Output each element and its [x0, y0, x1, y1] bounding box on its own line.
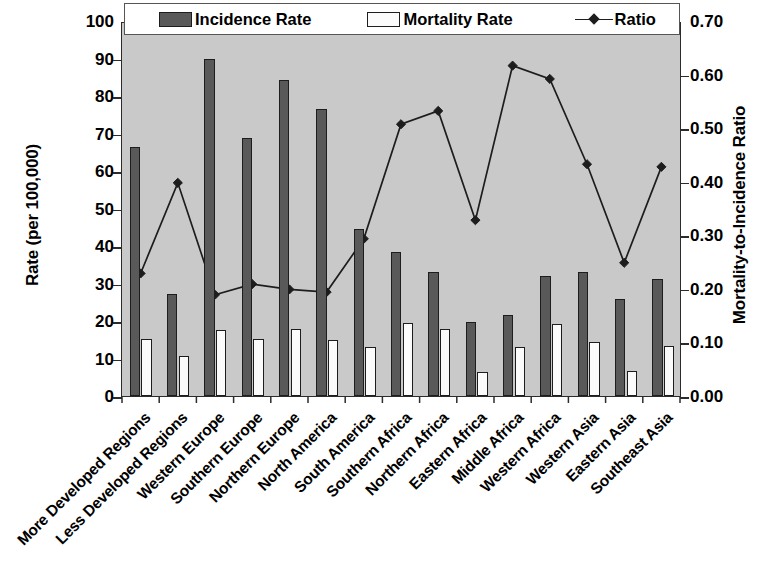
- ratio-data-marker: [657, 162, 666, 171]
- mortality-rate-bar: [141, 339, 151, 396]
- y-axis-right-tick-label: 0.40: [690, 174, 760, 191]
- chart-legend: Incidence Rate Mortality Rate Ratio: [124, 3, 680, 35]
- y-axis-left-tick-mark: [113, 60, 122, 62]
- y-axis-left-tick-mark: [113, 247, 122, 249]
- ratio-data-marker: [545, 74, 554, 83]
- y-axis-right-tick-label: 0.20: [690, 281, 760, 298]
- dark-bar-swatch-icon: [159, 12, 192, 27]
- y-axis-left-tick-label: 20: [54, 313, 114, 330]
- ratio-data-marker: [620, 258, 629, 267]
- light-bar-swatch-icon: [367, 12, 400, 27]
- y-axis-left-tick-label: 10: [54, 351, 114, 368]
- incidence-rate-bar: [540, 276, 550, 396]
- incidence-rate-bar: [242, 138, 252, 396]
- ratio-data-marker: [471, 216, 480, 225]
- mortality-rate-bar: [664, 346, 674, 396]
- ratio-data-marker: [582, 160, 591, 169]
- y-axis-left-title: Rate (per 100,000): [23, 90, 43, 340]
- legend-item-mortality-rate: Mortality Rate: [367, 10, 512, 29]
- ratio-data-marker: [508, 61, 517, 70]
- y-axis-left-tick-mark: [113, 210, 122, 212]
- ratio-data-marker: [173, 178, 182, 187]
- y-axis-left-tick-mark: [113, 360, 122, 362]
- x-axis-category-labels: More Developed RegionsLess Developed Reg…: [0, 400, 773, 574]
- mortality-rate-bar: [365, 347, 375, 397]
- y-axis-right-tick-mark: [680, 290, 689, 292]
- y-axis-right-tick-label: 0.50: [690, 120, 760, 137]
- mortality-rate-bar: [552, 324, 562, 396]
- y-axis-left-tick-label: 30: [54, 276, 114, 293]
- legend-item-ratio: Ratio: [575, 10, 656, 29]
- ratio-data-marker: [434, 106, 443, 115]
- y-axis-left-tick-label: 40: [54, 238, 114, 255]
- legend-item-incidence-rate: Incidence Rate: [159, 10, 311, 29]
- line-marker-swatch-icon: [575, 12, 613, 26]
- y-axis-right-tick-mark: [680, 129, 689, 131]
- mortality-rate-bar: [216, 330, 226, 396]
- incidence-rate-bar: [130, 147, 140, 396]
- incidence-rate-bar: [391, 252, 401, 396]
- y-axis-left-tick-label: 60: [54, 163, 114, 180]
- mortality-rate-bar: [589, 342, 599, 396]
- incidence-rate-bar: [316, 109, 326, 396]
- mortality-rate-bar: [627, 371, 637, 396]
- y-axis-left-tick-mark: [113, 322, 122, 324]
- incidence-rate-bar: [578, 272, 588, 396]
- mortality-rate-bar: [477, 372, 487, 396]
- y-axis-left-tick-mark: [113, 285, 122, 287]
- y-axis-left-tick-label: 90: [54, 51, 114, 68]
- mortality-rate-bar: [403, 323, 413, 396]
- y-axis-left-tick-label: 80: [54, 88, 114, 105]
- incidence-rate-bar: [615, 299, 625, 396]
- mortality-rate-bar: [179, 356, 189, 397]
- y-axis-right-tick-mark: [680, 397, 689, 399]
- chart-container: Rate (per 100,000) Mortality-to-Incidenc…: [0, 0, 773, 574]
- mortality-rate-bar: [440, 329, 450, 396]
- mortality-rate-bar: [515, 347, 525, 397]
- incidence-rate-bar: [204, 59, 214, 397]
- plot-area: [121, 22, 681, 397]
- legend-label-incidence-rate: Incidence Rate: [195, 10, 311, 29]
- incidence-rate-bar: [354, 229, 364, 396]
- incidence-rate-bar: [466, 322, 476, 396]
- y-axis-right-tick-label: 0.30: [690, 227, 760, 244]
- y-axis-right-tick-mark: [680, 236, 689, 238]
- incidence-rate-bar: [652, 279, 662, 396]
- incidence-rate-bar: [503, 315, 513, 396]
- y-axis-left-tick-mark: [113, 97, 122, 99]
- y-axis-left-tick-label: 100: [54, 13, 114, 30]
- mortality-rate-bar: [328, 340, 338, 396]
- y-axis-right-tick-label: 0.60: [690, 67, 760, 84]
- y-axis-right-tick-mark: [680, 343, 689, 345]
- incidence-rate-bar: [279, 80, 289, 396]
- mortality-rate-bar: [253, 339, 263, 396]
- y-axis-right-tick-mark: [680, 183, 689, 185]
- y-axis-right-tick-mark: [680, 76, 689, 78]
- incidence-rate-bar: [167, 294, 177, 396]
- y-axis-left-tick-label: 50: [54, 201, 114, 218]
- y-axis-right-tick-label: 0.10: [690, 334, 760, 351]
- y-axis-left-tick-mark: [113, 135, 122, 137]
- y-axis-left-tick-mark: [113, 397, 122, 399]
- y-axis-left-tick-mark: [113, 172, 122, 174]
- mortality-rate-bar: [291, 329, 301, 396]
- ratio-data-marker: [396, 120, 405, 129]
- legend-label-mortality-rate: Mortality Rate: [403, 10, 512, 29]
- y-axis-left-tick-label: 70: [54, 126, 114, 143]
- incidence-rate-bar: [428, 272, 438, 396]
- y-axis-right-tick-label: 0.70: [690, 13, 760, 30]
- legend-label-ratio: Ratio: [615, 10, 656, 29]
